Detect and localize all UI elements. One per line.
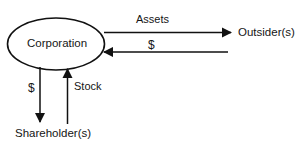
edge-label-cash-to-shareholders: $ [28, 82, 35, 94]
node-label-corporation: Corporation [27, 38, 87, 50]
diagram-canvas: Corporation Outsider(s) Shareholder(s) A… [0, 0, 295, 148]
edge-label-cash-from-outsiders: $ [148, 39, 155, 51]
edge-label-stock: Stock [74, 81, 102, 92]
edge-label-assets: Assets [136, 14, 169, 25]
node-label-outsiders: Outsider(s) [238, 27, 295, 39]
node-label-shareholders: Shareholder(s) [15, 128, 91, 140]
